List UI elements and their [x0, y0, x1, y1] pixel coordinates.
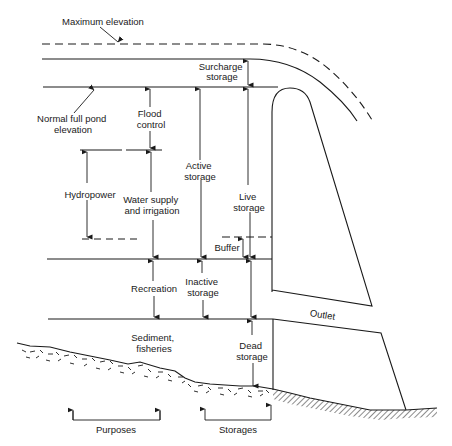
maximum-elevation-line: [42, 44, 372, 120]
label-outlet: Outlet: [309, 307, 336, 322]
label-water-supply: Water supply and irrigation: [123, 194, 181, 216]
label-live-storage: Live storage: [233, 191, 265, 213]
foundation-hatch: [273, 389, 437, 420]
label-purposes: Purposes: [96, 424, 136, 435]
label-storages: Storages: [219, 424, 257, 435]
label-inactive-storage: Inactive storage: [185, 276, 220, 298]
normal-full-pond-pointer: [74, 90, 94, 113]
reservoir-storage-diagram: Maximum elevation Surcharge storage Norm…: [0, 0, 452, 446]
label-hydropower: Hydropower: [64, 189, 115, 200]
label-recreation: Recreation: [131, 283, 177, 294]
label-active-storage: Active storage: [184, 160, 216, 182]
maximum-elevation-pointer: [100, 27, 118, 42]
label-buffer: Buffer: [214, 242, 239, 253]
sediment-texture: [22, 350, 269, 397]
label-surcharge-storage: Surcharge storage: [199, 61, 245, 82]
label-sediment-fisheries: Sediment, fisheries: [131, 332, 176, 354]
label-flood-control: Flood control: [137, 108, 166, 130]
purposes-bracket: [73, 411, 160, 420]
label-dead-storage: Dead storage: [236, 340, 268, 362]
label-maximum-elevation: Maximum elevation: [62, 16, 144, 27]
label-normal-full-pond: Normal full pond elevation: [37, 113, 109, 135]
